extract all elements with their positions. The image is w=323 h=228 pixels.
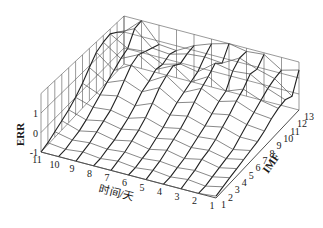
surface-imf-line [129, 44, 212, 175]
x-tick-label: 5 [140, 182, 145, 193]
x-tick-label: 4 [157, 186, 162, 197]
y-tick-label: 4 [242, 177, 247, 188]
z-axis-ticks: -101 [30, 108, 38, 158]
x-tick-label: 2 [192, 195, 197, 206]
x-axis-ticks: 1110987654321 [32, 154, 214, 211]
z-axis-label: ERR [14, 122, 26, 146]
y-tick-label: 2 [228, 192, 233, 203]
surface-imf-line [59, 21, 142, 157]
x-tick-label: 9 [70, 163, 75, 174]
x-tick-label: 10 [50, 159, 60, 170]
y-tick-label: 9 [276, 140, 281, 151]
x-tick-label: 7 [105, 172, 110, 183]
y-tick-label: 5 [249, 170, 254, 181]
surface-time-line [117, 29, 292, 97]
x-tick-label: 8 [87, 168, 92, 179]
x-tick-label: 6 [122, 177, 127, 188]
y-tick-label: 13 [304, 111, 314, 122]
z-tick-label: 0 [33, 128, 38, 139]
x-axis-label: 时间/天 [98, 182, 136, 202]
chart-3d-surface: 1110987654321 12345678910111213 -101 时间/… [0, 0, 323, 228]
chart-back-walls [41, 16, 299, 152]
right-edge [216, 110, 299, 198]
chart-floor-grid [41, 110, 299, 198]
x-tick-label: 1 [210, 200, 215, 211]
surface-time-line [110, 34, 285, 100]
z-tick-label: -1 [30, 147, 38, 158]
x-tick-label: 3 [175, 191, 180, 202]
z-tick-label: 1 [33, 108, 38, 119]
surface-imf-line [181, 54, 264, 188]
y-tick-label: 1 [221, 199, 226, 210]
y-tick-label: 3 [235, 184, 240, 195]
